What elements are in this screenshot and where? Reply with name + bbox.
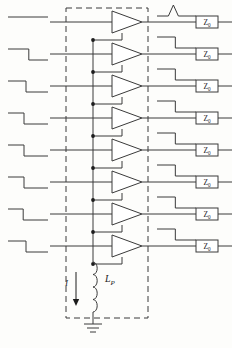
amp-bias-stub-2 <box>93 65 122 72</box>
amp-bias-stub-6 <box>93 193 122 200</box>
input-waveform-5 <box>8 145 48 156</box>
termination-box-group: Z0Z0Z0Z0Z0Z0Z0Z0 <box>196 16 218 252</box>
driver-triangle-5[interactable] <box>112 139 142 161</box>
output-waveform-3 <box>157 69 196 80</box>
input-waveform-group <box>8 17 48 252</box>
bus-junction-dot-5 <box>91 134 95 138</box>
schematic-svg: Z0Z0Z0Z0Z0Z0Z0Z0 ILP <box>0 0 232 348</box>
driver-triangle-8[interactable] <box>112 235 142 257</box>
driver-triangle-4[interactable] <box>112 107 142 129</box>
inductor-coil <box>93 262 97 312</box>
output-waveform-5 <box>157 133 196 144</box>
bus-junction-dot-8 <box>91 230 95 234</box>
input-waveform-6 <box>8 177 48 188</box>
amp-bias-stub-7 <box>93 225 122 232</box>
output-waveform-6 <box>157 165 196 176</box>
driver-triangle-1[interactable] <box>112 11 142 33</box>
circuit-diagram-canvas: Z0Z0Z0Z0Z0Z0Z0Z0 ILP <box>0 0 232 348</box>
amp-bias-stub-4 <box>93 129 122 136</box>
output-waveform-8 <box>157 229 196 240</box>
driver-triangle-2[interactable] <box>112 43 142 65</box>
bus-junction-dot-3 <box>91 70 95 74</box>
output-waveform-2 <box>157 37 196 48</box>
input-waveform-2 <box>8 49 48 60</box>
driver-triangle-7[interactable] <box>112 203 142 225</box>
driver-triangle-3[interactable] <box>112 75 142 97</box>
amp-bias-stub-1 <box>93 33 122 40</box>
bus-junction-dot-4 <box>91 102 95 106</box>
bus-junction-dot-6 <box>91 166 95 170</box>
input-waveform-3 <box>8 81 48 92</box>
input-waveform-7 <box>8 209 48 220</box>
output-waveform-7 <box>157 197 196 208</box>
amp-bias-stub-8 <box>93 257 122 264</box>
input-waveform-4 <box>8 113 48 124</box>
bus-junction-dot-7 <box>91 198 95 202</box>
driver-triangle-6[interactable] <box>112 171 142 193</box>
bus-junction-dot-2 <box>91 38 95 42</box>
output-waveform-4 <box>157 101 196 112</box>
output-waveform-group <box>157 5 196 240</box>
amplifier-group <box>112 11 142 257</box>
current-label: I <box>64 278 69 288</box>
current-source-and-inductor: ILP <box>64 262 116 332</box>
input-waveform-8 <box>8 241 48 252</box>
current-arrow-head <box>73 299 79 306</box>
inductor-label: LP <box>104 273 116 287</box>
output-waveform-1 <box>157 5 196 16</box>
input-line-group <box>50 22 112 246</box>
amp-bias-stub-5 <box>93 161 122 168</box>
amp-bias-stub-3 <box>93 97 122 104</box>
